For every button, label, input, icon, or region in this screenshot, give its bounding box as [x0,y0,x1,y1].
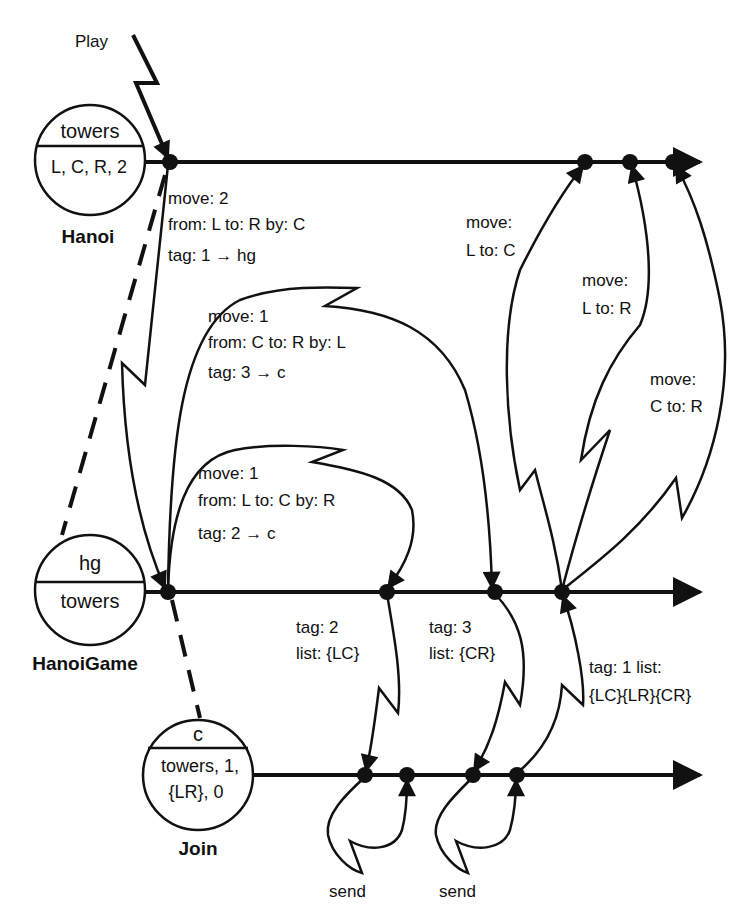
send-label-2: send [439,882,476,901]
message-move1-lc-line3: tag: 2 → c [198,524,276,543]
event-dot-hanoi-start [162,154,178,170]
reply-tag1-line1: tag: 1 list: [589,658,662,677]
message-move2-arrow [122,165,168,588]
message-move1-lc-line2: from: L to: C by: R [198,491,335,510]
object-hanoigame: hg towers [35,535,145,645]
message-out-lc-line2: L to: C [466,241,515,260]
message-move1-cr-line3: tag: 3 → c [208,363,286,382]
send-loop-2 [436,777,516,873]
play-label: Play [75,32,109,51]
message-tag3-forward-arrow [474,594,524,771]
event-dot-join-2 [399,767,415,783]
message-move2-line3: tag: 1 → hg [168,246,256,265]
reply-tag3-line1: tag: 3 [429,618,472,637]
reply-tag3-line2: list: {CR} [429,644,495,663]
message-move2-line2: from: L to: R by: C [168,215,305,234]
message-out-lr-line2: L to: R [582,299,631,318]
object-join: c towers, 1, {LR}, 0 [143,720,253,830]
message-out-cr-line2: C to: R [650,397,703,416]
reply-tag2-line1: tag: 2 [296,618,339,637]
object-hanoi-top: towers [61,120,120,142]
send-label-1: send [329,882,366,901]
event-dot-join-4 [509,767,525,783]
object-hanoigame-top: hg [79,552,101,574]
object-interaction-diagram: Play towers L, C, R, 2 Hanoi hg towers H… [0,0,756,923]
object-join-bottom-line2: {LR}, 0 [168,782,223,802]
event-dot-join-1 [357,767,373,783]
object-hanoi: towers L, C, R, 2 [35,105,145,215]
message-move2-line1: move: 2 [168,189,228,208]
message-out-lc-line1: move: [466,213,512,232]
object-hanoi-bottom: L, C, R, 2 [51,157,127,177]
object-hanoigame-name: HanoiGame [32,653,138,674]
message-out-cr-line1: move: [650,370,696,389]
reply-tag2-line2: list: {LC} [296,644,360,663]
object-join-top: c [193,723,203,745]
object-hanoi-name: Hanoi [62,226,115,247]
event-dot-hanoi-2 [622,154,638,170]
object-join-name: Join [178,838,217,859]
object-join-bottom-line1: towers, 1, [161,756,239,776]
message-move1-lc-line1: move: 1 [198,464,258,483]
event-dot-hanoi-1 [577,154,593,170]
message-tag1-reply-arrow [517,596,583,773]
message-tag2-forward-arrow [366,594,399,771]
event-dot-hanoigame-start [160,584,176,600]
reply-tag1-line2: {LC}{LR}{CR} [589,686,691,705]
message-move1-cr-line2: from: C to: R by: L [208,333,346,352]
message-out-lr-line1: move: [582,271,628,290]
message-out-lc-arrow [507,166,583,590]
send-loop-1 [328,777,407,873]
object-hanoigame-bottom: towers [61,590,120,612]
message-move1-cr-line1: move: 1 [208,307,268,326]
event-dot-hanoigame-3 [554,584,570,600]
creation-link-hanoigame-join [172,600,200,718]
message-out-cr-arrow [562,166,725,590]
event-dot-hanoi-3 [665,154,681,170]
event-dot-hanoigame-1 [379,584,395,600]
event-dot-join-3 [465,767,481,783]
event-dot-hanoigame-2 [487,584,503,600]
